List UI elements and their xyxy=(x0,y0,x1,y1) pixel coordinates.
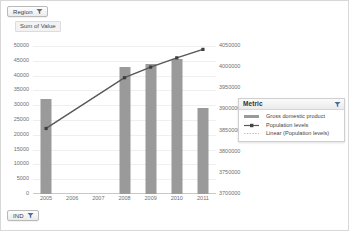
legend-swatch-bar-icon xyxy=(243,113,263,120)
slicer-region-label: Region xyxy=(13,9,33,15)
trendline-linear-population-levels xyxy=(46,49,203,128)
x-axis-tick: 2006 xyxy=(66,196,78,202)
legend-metric[interactable]: Metric Gross domestic product xyxy=(238,98,345,142)
chart-container: Region Sum of Value 50000 45000 40000 35… xyxy=(0,0,349,231)
filter-funnel-icon[interactable] xyxy=(27,212,34,219)
line-marker xyxy=(123,76,126,79)
y-axis-right-tick: 4050000 xyxy=(219,43,240,49)
filter-funnel-icon[interactable] xyxy=(334,101,341,108)
legend-item[interactable]: Population levels xyxy=(243,121,341,129)
line-marker xyxy=(149,66,152,69)
y-axis-left-tick: 35000 xyxy=(14,88,29,94)
y-axis-right-tick: 4000000 xyxy=(219,64,240,70)
y-axis-left-tick: 40000 xyxy=(14,73,29,79)
line-marker xyxy=(175,56,178,59)
y-axis-left: 50000 45000 40000 35000 30000 25000 2000… xyxy=(1,46,31,194)
legend-item[interactable]: Linear (Population levels) xyxy=(243,129,341,137)
x-axis-tick: 2007 xyxy=(92,196,104,202)
y-axis-right-tick: 3950000 xyxy=(219,86,240,92)
line-marker xyxy=(201,48,204,51)
y-axis-right-tick: 3700000 xyxy=(219,191,240,197)
legend-item-label: Gross domestic product xyxy=(266,112,325,120)
plot-area xyxy=(33,46,216,194)
line-population-levels xyxy=(46,49,203,128)
y-axis-right-tick: 3800000 xyxy=(219,149,240,155)
slicer-ind[interactable]: IND xyxy=(7,210,39,221)
legend-title: Metric xyxy=(243,100,263,108)
y-axis-left-tick: 10000 xyxy=(14,162,29,168)
legend-item-label: Linear (Population levels) xyxy=(266,129,329,137)
filter-funnel-icon[interactable] xyxy=(36,8,43,15)
line-series-layer xyxy=(33,46,216,194)
slicer-ind-label: IND xyxy=(13,213,24,219)
y-axis-left-tick: 50000 xyxy=(14,43,29,49)
x-axis-tick: 2005 xyxy=(40,196,52,202)
y-axis-right-tick: 3750000 xyxy=(219,170,240,176)
line-markers-population-levels xyxy=(44,48,204,130)
y-axis-left-tick: 15000 xyxy=(14,147,29,153)
y-axis-left-tick: 5000 xyxy=(17,176,29,182)
slicer-region[interactable]: Region xyxy=(7,6,48,17)
legend-item[interactable]: Gross domestic product xyxy=(243,112,341,120)
legend-swatch-dotted-line-icon xyxy=(243,130,263,137)
x-axis-tick: 2011 xyxy=(197,196,209,202)
x-axis-tick: 2010 xyxy=(171,196,183,202)
x-axis: 2005 2006 2007 2008 2009 2010 2011 xyxy=(33,196,216,208)
value-caption: Sum of Value xyxy=(15,21,61,32)
y-axis-left-tick: 25000 xyxy=(14,117,29,123)
legend-header[interactable]: Metric xyxy=(239,99,344,110)
legend-swatch-line-marker-icon xyxy=(243,122,263,129)
y-axis-left-tick: 20000 xyxy=(14,132,29,138)
y-axis-left-tick: 45000 xyxy=(14,58,29,64)
y-axis-left-tick: 0 xyxy=(26,191,29,197)
legend-item-label: Population levels xyxy=(266,121,308,129)
y-axis-left-tick: 30000 xyxy=(14,102,29,108)
x-axis-tick: 2009 xyxy=(145,196,157,202)
line-marker xyxy=(44,127,47,130)
legend-items: Gross domestic product Population levels xyxy=(239,110,344,140)
x-axis-tick: 2008 xyxy=(118,196,130,202)
